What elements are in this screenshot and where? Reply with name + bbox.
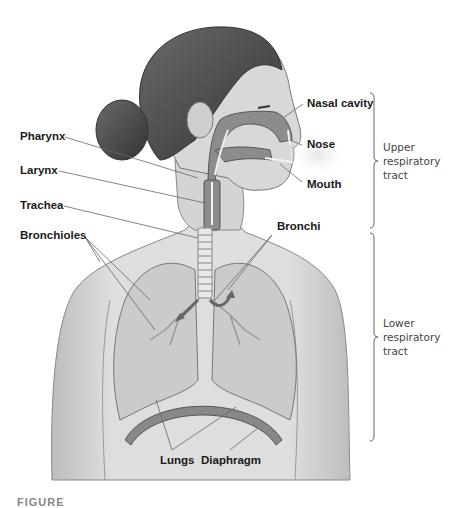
region-lower-line1: Lower <box>383 316 440 330</box>
label-nasal-cavity: Nasal cavity <box>307 97 374 109</box>
region-upper-line2: respiratory <box>383 154 440 168</box>
region-lower-line2: respiratory <box>383 330 440 344</box>
region-upper-line1: Upper <box>383 140 440 154</box>
label-diaphragm: Diaphragm <box>201 454 261 466</box>
region-lower-respiratory-tract: Lower respiratory tract <box>383 316 440 358</box>
head <box>96 27 301 190</box>
label-nose: Nose <box>307 138 335 150</box>
label-mouth: Mouth <box>307 178 341 190</box>
label-larynx: Larynx <box>20 164 58 176</box>
label-pharynx: Pharynx <box>20 130 65 142</box>
region-lower-line3: tract <box>383 344 440 358</box>
label-lungs: Lungs <box>160 454 195 466</box>
region-upper-respiratory-tract: Upper respiratory tract <box>383 140 440 182</box>
label-trachea: Trachea <box>20 199 63 211</box>
label-bronchi: Bronchi <box>277 220 320 232</box>
trachea <box>198 228 212 298</box>
label-bronchioles: Bronchioles <box>20 229 86 241</box>
figure-caption: FIGURE <box>17 496 65 508</box>
region-upper-line3: tract <box>383 168 440 182</box>
region-braces <box>370 93 378 441</box>
